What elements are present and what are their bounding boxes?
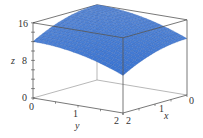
surface-mesh (33, 5, 187, 76)
z-tick-8: 8 (22, 55, 27, 66)
y-axis-label: y (74, 120, 80, 131)
z-axis-label: z (10, 55, 15, 66)
surface-plot: 16 8 0 z 0 1 2 y 2 1 0 x (0, 0, 203, 138)
y-tick-1: 1 (73, 108, 78, 119)
x-axis-label: x (163, 110, 169, 121)
x-tick-2: 2 (126, 115, 131, 126)
y-tick-2: 2 (114, 115, 119, 126)
z-tick-0: 0 (22, 92, 27, 103)
x-tick-0: 0 (189, 95, 194, 106)
surface-plot-canvas: 16 8 0 z 0 1 2 y 2 1 0 x (0, 0, 203, 138)
z-tick-16: 16 (18, 18, 28, 29)
y-tick-0: 0 (29, 101, 34, 112)
